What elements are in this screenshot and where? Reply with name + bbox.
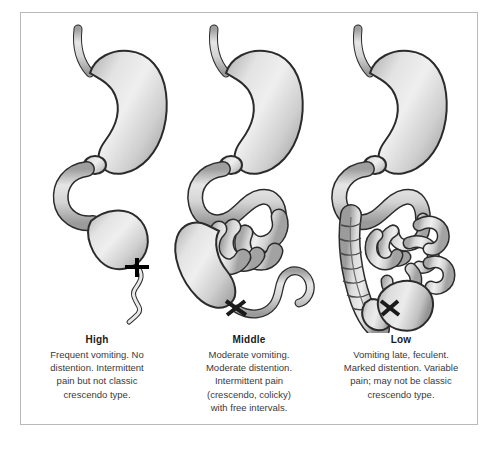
caption-line: crescendo type. — [25, 388, 169, 401]
caption-line: with free intervals. — [177, 401, 321, 414]
panel-middle-illustration — [175, 29, 310, 315]
caption-line: pain but not classic — [25, 374, 169, 387]
caption-column-middle: Middle Moderate vomiting. Moderate diste… — [173, 333, 325, 414]
stomach — [370, 51, 447, 174]
caption-body-middle: Moderate vomiting. Moderate distention. … — [177, 348, 321, 414]
caption-line: crescendo type. — [329, 388, 473, 401]
caption-line: distention. Intermittent — [25, 361, 169, 374]
caption-title-middle: Middle — [177, 333, 321, 347]
panel-high-illustration — [61, 29, 167, 322]
caption-line: pain; may not be classic — [329, 374, 473, 387]
bowel-obstruction-illustration — [21, 13, 477, 333]
captions-row: High Frequent vomiting. No distention. I… — [21, 333, 477, 424]
caption-line: Vomiting late, feculent. — [329, 348, 473, 361]
caption-line: Frequent vomiting. No — [25, 348, 169, 361]
caption-line: Moderate vomiting. — [177, 348, 321, 361]
figure-panel-border: High Frequent vomiting. No distention. I… — [20, 12, 478, 425]
caption-title-high: High — [25, 333, 169, 347]
caption-line: Intermittent pain — [177, 374, 321, 387]
stomach — [226, 51, 303, 174]
caption-column-low: Low Vomiting late, feculent. Marked dist… — [325, 333, 477, 401]
caption-line: Moderate distention. — [177, 361, 321, 374]
caption-body-high: Frequent vomiting. No distention. Interm… — [25, 348, 169, 401]
caption-line: Marked distention. Variable — [329, 361, 473, 374]
caption-column-high: High Frequent vomiting. No distention. I… — [21, 333, 173, 401]
caption-line: (crescendo, colicky) — [177, 388, 321, 401]
caption-body-low: Vomiting late, feculent. Marked distenti… — [329, 348, 473, 401]
panel-low-illustration — [339, 29, 449, 331]
caption-title-low: Low — [329, 333, 473, 347]
stomach — [90, 51, 167, 174]
